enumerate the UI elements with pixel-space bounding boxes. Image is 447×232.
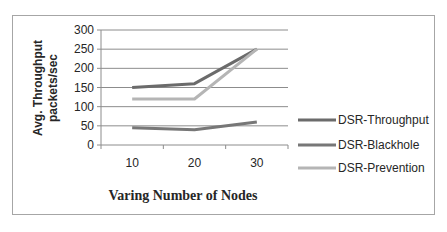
legend-label: DSR-Throughput	[338, 113, 429, 127]
x-tick-label: 30	[250, 156, 264, 170]
x-tick-label: 10	[125, 156, 139, 170]
y-axis-ticks: 050100150200250300	[74, 23, 101, 152]
y-axis-label-line2: packets/sec	[46, 54, 60, 122]
series-line-dsr-prevention	[132, 49, 257, 99]
x-axis-label: Varing Number of Nodes	[109, 188, 259, 203]
legend: DSR-ThroughputDSR-BlackholeDSR-Preventio…	[298, 113, 429, 175]
x-axis-ticks: 102030	[101, 145, 288, 170]
y-tick-label: 100	[74, 100, 94, 114]
legend-label: DSR-Prevention	[338, 161, 425, 175]
y-tick-label: 300	[74, 23, 94, 37]
y-tick-label: 200	[74, 61, 94, 75]
y-tick-label: 0	[87, 138, 94, 152]
y-axis-label-line1: Avg. Throughput	[31, 40, 45, 136]
y-tick-label: 50	[81, 119, 95, 133]
series-lines	[132, 49, 257, 130]
y-tick-label: 150	[74, 81, 94, 95]
x-tick-label: 20	[188, 156, 202, 170]
y-tick-label: 250	[74, 42, 94, 56]
line-chart: 050100150200250300 102030 Avg. Throughpu…	[0, 0, 447, 232]
legend-label: DSR-Blackhole	[338, 138, 420, 152]
gridlines	[101, 30, 288, 126]
